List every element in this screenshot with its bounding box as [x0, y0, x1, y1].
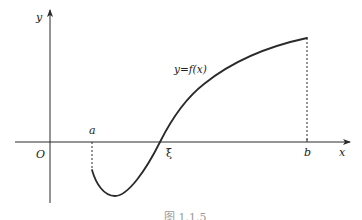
y-axis-label: y: [36, 12, 42, 23]
xi-label: ξ: [166, 148, 172, 159]
origin-label: O: [36, 149, 45, 160]
b-label: b: [304, 147, 311, 158]
x-axis-label: x: [339, 147, 345, 158]
diagram-graphics: [0, 0, 362, 220]
figure-caption: 图 1.1.5: [164, 212, 207, 220]
function-curve: [92, 38, 307, 196]
a-label: a: [89, 125, 96, 136]
function-diagram: y O x a b ξ y=f(x) 图 1.1.5: [0, 0, 362, 220]
curve-label: y=f(x): [174, 64, 207, 75]
